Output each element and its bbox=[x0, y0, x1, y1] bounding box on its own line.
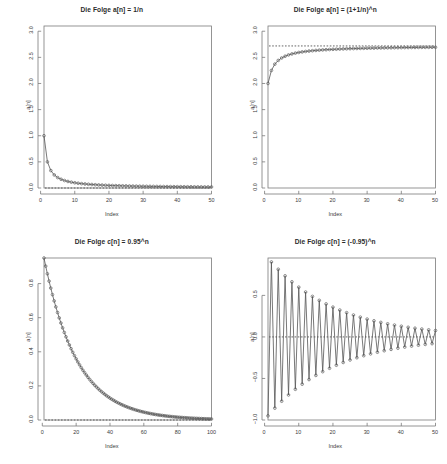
x-tick-label: 40 bbox=[391, 197, 411, 203]
x-tick-label: 20 bbox=[66, 429, 86, 435]
y-tick-label: 2.0 bbox=[252, 75, 258, 89]
y-tick-label: 2.0 bbox=[28, 75, 34, 89]
x-tick-label: 60 bbox=[134, 429, 154, 435]
y-tick-label: 3.0 bbox=[252, 23, 258, 37]
x-tick-label: 50 bbox=[425, 429, 445, 435]
x-axis-label: Index bbox=[224, 211, 447, 217]
figure-grid: Die Folge a[n] = 1/n Index a[n] 01020304… bbox=[0, 0, 447, 464]
x-axis-label: Index bbox=[224, 443, 447, 449]
x-tick-label: 40 bbox=[100, 429, 120, 435]
y-tick-label: 1.0 bbox=[28, 128, 34, 142]
x-tick-label: 0 bbox=[254, 197, 274, 203]
y-tick-label: 0.8 bbox=[28, 276, 34, 290]
x-tick-label: 0 bbox=[254, 429, 274, 435]
y-tick-label: 0.0 bbox=[252, 329, 258, 343]
x-tick-label: 20 bbox=[322, 197, 342, 203]
y-tick-label: 2.5 bbox=[252, 49, 258, 63]
x-tick-label: 20 bbox=[322, 429, 342, 435]
x-tick-label: 30 bbox=[133, 197, 153, 203]
y-tick-label: 0.5 bbox=[252, 154, 258, 168]
panel-a-1-over-n: Die Folge a[n] = 1/n Index a[n] 01020304… bbox=[0, 0, 224, 232]
panel-c-neg095: Die Folge c[n] = (-0.95)^n Index a[n] 01… bbox=[224, 232, 447, 464]
x-tick-label: 100 bbox=[202, 429, 222, 435]
y-tick-label: 0.5 bbox=[252, 287, 258, 301]
x-tick-label: 20 bbox=[99, 197, 119, 203]
y-tick-label: 0.4 bbox=[28, 344, 34, 358]
x-axis-label: Index bbox=[0, 211, 224, 217]
x-tick-label: 40 bbox=[167, 197, 187, 203]
y-tick-label: 0.0 bbox=[252, 180, 258, 194]
y-tick-label: 0.6 bbox=[28, 310, 34, 324]
x-tick-label: 30 bbox=[357, 429, 377, 435]
x-tick-label: 80 bbox=[168, 429, 188, 435]
panel-a-euler: Die Folge a[n] = (1+1/n)^n Index a[n] 01… bbox=[224, 0, 447, 232]
y-tick-label: 0.5 bbox=[28, 154, 34, 168]
x-tick-label: 50 bbox=[425, 197, 445, 203]
y-tick-label: 0.0 bbox=[28, 180, 34, 194]
y-tick-label: 2.5 bbox=[28, 49, 34, 63]
y-tick-label: 1.0 bbox=[252, 128, 258, 142]
x-axis-label: Index bbox=[0, 443, 224, 449]
x-tick-label: 10 bbox=[288, 197, 308, 203]
panel-c-095: Die Folge c[n] = 0.95^n Index a[n] 02040… bbox=[0, 232, 224, 464]
y-tick-label: 0.2 bbox=[28, 378, 34, 392]
y-tick-label: 1.5 bbox=[252, 102, 258, 116]
x-tick-label: 10 bbox=[65, 197, 85, 203]
y-tick-label: 1.5 bbox=[28, 102, 34, 116]
y-tick-label: 3.0 bbox=[28, 23, 34, 37]
x-tick-label: 0 bbox=[31, 197, 51, 203]
x-tick-label: 10 bbox=[288, 429, 308, 435]
x-tick-label: 30 bbox=[357, 197, 377, 203]
x-tick-label: 0 bbox=[32, 429, 52, 435]
x-tick-label: 50 bbox=[202, 197, 222, 203]
y-tick-label: −0.5 bbox=[252, 370, 258, 384]
y-tick-label: −1.0 bbox=[252, 412, 258, 426]
y-tick-label: 0.0 bbox=[28, 412, 34, 426]
x-tick-label: 40 bbox=[391, 429, 411, 435]
